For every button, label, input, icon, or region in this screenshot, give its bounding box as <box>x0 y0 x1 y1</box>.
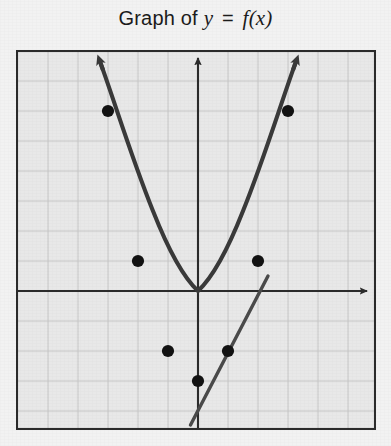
marked-point <box>192 375 204 387</box>
marked-point <box>222 345 234 357</box>
marked-point <box>162 345 174 357</box>
marked-point <box>252 255 264 267</box>
figure-title-function-fx: f(x) <box>243 6 273 30</box>
figure-title-variable-y: y <box>204 6 214 30</box>
figure-title: Graph of y = f(x) <box>0 6 391 31</box>
marked-point <box>282 105 294 117</box>
graph-figure: Graph of y = f(x) <box>0 0 391 446</box>
coordinate-plane <box>16 50 376 430</box>
figure-title-prefix: Graph of <box>118 7 197 29</box>
marked-point <box>102 105 114 117</box>
marked-point <box>132 255 144 267</box>
plot-background <box>16 50 376 430</box>
plot-area <box>16 50 376 430</box>
figure-title-equals: = <box>219 7 237 29</box>
